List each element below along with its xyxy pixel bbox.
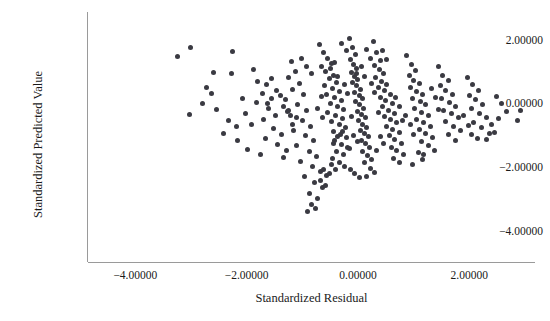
scatter-point: [293, 69, 298, 74]
scatter-point: [318, 178, 323, 183]
scatter-point: [334, 80, 339, 85]
y-axis-title: Standardized Predicted Value: [31, 45, 46, 245]
scatter-point: [361, 106, 366, 111]
scatter-point: [372, 90, 377, 95]
scatter-point: [269, 76, 274, 81]
scatter-point: [337, 89, 342, 94]
scatter-point: [362, 74, 367, 79]
scatter-point: [428, 124, 433, 129]
scatter-point: [283, 97, 288, 102]
scatter-point: [399, 141, 404, 146]
scatter-point: [319, 94, 324, 99]
scatter-point: [209, 91, 214, 96]
scatter-point: [175, 54, 180, 59]
scatter-point: [412, 106, 417, 111]
scatter-point: [251, 67, 256, 72]
scatter-point: [333, 113, 338, 118]
scatter-point: [321, 167, 326, 172]
scatter-point: [324, 92, 329, 97]
y-axis-tick-label: −4.00000: [464, 226, 550, 238]
scatter-point: [408, 122, 413, 127]
scatter-point: [302, 174, 307, 179]
scatter-point: [394, 120, 399, 125]
scatter-point: [200, 101, 205, 106]
scatter-point: [414, 117, 419, 122]
scatter-point: [339, 41, 344, 46]
x-axis-tick-label: 2.00000: [451, 270, 488, 282]
scatter-point: [388, 117, 393, 122]
scatter-point: [304, 108, 309, 113]
scatter-point: [421, 120, 426, 125]
scatter-point: [331, 141, 336, 146]
scatter-point: [344, 135, 349, 140]
scatter-point: [274, 88, 279, 93]
scatter-point: [304, 64, 309, 69]
scatter-point: [407, 73, 412, 78]
scatter-point: [312, 180, 317, 185]
scatter-point: [342, 82, 347, 87]
scatter-point: [389, 145, 394, 150]
scatter-point: [360, 96, 365, 101]
scatter-point: [299, 56, 304, 61]
x-axis-title: Standardized Residual: [88, 291, 535, 306]
scatter-point: [301, 92, 306, 97]
scatter-point: [327, 76, 332, 81]
scatter-point: [188, 45, 193, 50]
scatter-point: [240, 96, 245, 101]
scatter-point: [413, 68, 418, 73]
x-axis-tick-label: −4.00000: [113, 270, 157, 282]
scatter-point: [379, 79, 384, 84]
scatter-point: [439, 96, 444, 101]
scatter-point: [335, 104, 340, 109]
scatter-point: [255, 79, 260, 84]
scatter-point: [458, 128, 463, 133]
scatter-point: [260, 91, 265, 96]
scatter-point: [383, 98, 388, 103]
scatter-point: [317, 42, 322, 47]
scatter-point: [307, 191, 312, 196]
scatter-point: [337, 122, 342, 127]
scatter-point: [357, 175, 362, 180]
scatter-point: [269, 96, 274, 101]
scatter-point: [479, 125, 484, 130]
scatter-point: [297, 81, 302, 86]
scatter-point: [408, 85, 413, 90]
scatter-point: [328, 66, 333, 71]
scatter-point: [364, 125, 369, 130]
scatter-point: [337, 160, 342, 165]
scatter-point: [451, 124, 456, 129]
scatter-point: [281, 155, 286, 160]
scatter-point: [353, 52, 358, 57]
scatter-point: [327, 171, 332, 176]
scatter-point: [214, 107, 219, 112]
scatter-point: [289, 59, 294, 64]
scatter-point: [467, 93, 472, 98]
scatter-point: [381, 71, 386, 76]
scatter-point: [331, 129, 336, 134]
scatter-point: [378, 58, 383, 63]
scatter-point: [390, 101, 395, 106]
scatter-point: [320, 115, 325, 120]
scatter-point: [315, 196, 320, 201]
scatter-point: [234, 124, 239, 129]
scatter-point: [342, 164, 347, 169]
scatter-point: [423, 102, 428, 107]
scatter-point: [341, 152, 346, 157]
scatter-point: [430, 135, 435, 140]
scatter-point: [266, 106, 271, 111]
scatter-point: [290, 122, 295, 127]
scatter-point: [426, 113, 431, 118]
scatter-point: [330, 156, 335, 161]
scatter-point: [281, 104, 286, 109]
scatter-point: [303, 133, 308, 138]
scatter-point: [290, 87, 295, 92]
scatter-point: [286, 75, 291, 80]
scatter-point: [364, 174, 369, 179]
scatter-point: [449, 111, 454, 116]
scatter-point: [391, 156, 396, 161]
scatter-point: [329, 162, 334, 167]
scatter-point: [471, 120, 476, 125]
scatter-point: [263, 136, 268, 141]
scatter-point: [378, 134, 383, 139]
scatter-point: [374, 50, 379, 55]
